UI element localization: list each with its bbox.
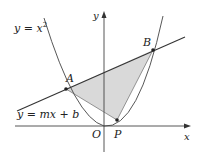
x-axis-label: x: [184, 131, 190, 142]
line-label: y = mx + b: [16, 108, 79, 121]
y-axis-label: y: [92, 10, 99, 21]
curve-label: y = x2: [13, 21, 47, 35]
origin-label: O: [92, 128, 101, 141]
point-p: [115, 118, 119, 122]
x-axis-arrow-icon: [184, 124, 191, 129]
point-b-label: B: [142, 36, 151, 49]
point-b: [151, 48, 155, 52]
diagram-canvas: y = x2 y = mx + b A B O P y x: [0, 0, 202, 160]
y-axis-arrow-icon: [102, 11, 107, 18]
point-a-label: A: [65, 72, 74, 85]
point-p-label: P: [113, 128, 122, 141]
point-a: [64, 87, 68, 91]
curve-exponent: 2: [43, 21, 47, 29]
